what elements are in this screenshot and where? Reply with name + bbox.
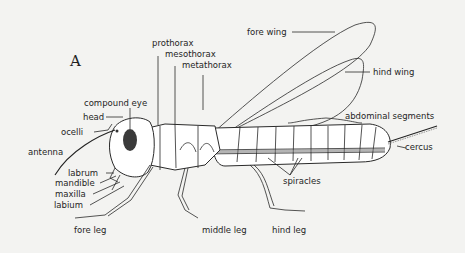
label-mesothorax: mesothorax <box>165 49 216 59</box>
label-labrum: labrum <box>68 168 98 178</box>
label-metathorax: metathorax <box>182 60 232 70</box>
label-spiracles: spiracles <box>283 176 321 186</box>
abdomen-shape <box>200 124 390 166</box>
label-fore-leg: fore leg <box>74 225 106 235</box>
labium-leader <box>90 186 124 205</box>
label-hind-leg: hind leg <box>272 225 306 235</box>
middle-leg-shape <box>178 168 198 218</box>
label-maxilla: maxilla <box>55 189 86 199</box>
ocelli-leader <box>94 124 112 132</box>
label-ocelli: ocelli <box>61 127 83 137</box>
panel-label: A <box>69 52 81 70</box>
label-head: head <box>83 112 104 122</box>
label-antenna: antenna <box>28 147 63 157</box>
thorax-shape <box>148 124 220 170</box>
maxilla-leader <box>93 182 120 194</box>
label-compound-eye: compound eye <box>84 98 147 108</box>
label-middle-leg: middle leg <box>202 225 247 235</box>
label-prothorax: prothorax <box>152 38 194 48</box>
label-fore-wing: fore wing <box>247 27 287 37</box>
label-labium: labium <box>54 200 83 210</box>
insect-anatomy-diagram: A <box>0 0 465 253</box>
label-mandible: mandible <box>55 178 95 188</box>
hind-leg-shape <box>250 165 305 211</box>
label-hind-wing: hind wing <box>373 67 414 77</box>
head-shape <box>109 118 154 190</box>
compound-eye-icon <box>123 129 137 151</box>
label-cercus: cercus <box>405 142 433 152</box>
label-abdominal-segments: abdominal segments <box>345 111 435 121</box>
